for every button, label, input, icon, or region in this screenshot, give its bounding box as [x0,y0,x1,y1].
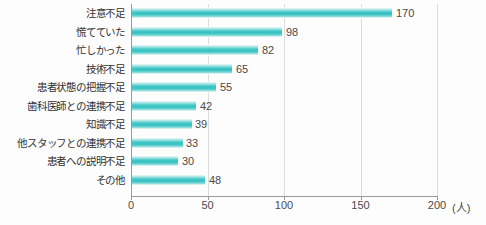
value-label: 170 [392,7,414,19]
bar-row: 他スタッフとの連携不足 33 [0,134,486,153]
bar-row: 患者状態の把握不足 55 [0,78,486,97]
value-label: 98 [282,26,298,38]
bar-row: 忙しかった 82 [0,41,486,60]
value-label: 48 [205,174,221,186]
bar-wrap [132,45,258,56]
bar-row: 患者への説明不足 30 [0,152,486,171]
category-label: 技術不足 [0,63,125,75]
xtick-label: 150 [351,199,369,211]
bar[interactable] [132,82,216,93]
value-label: 42 [196,100,212,112]
bar-row: 知識不足 39 [0,115,486,134]
category-label: 他スタッフとの連携不足 [0,137,125,149]
value-label: 39 [191,118,207,130]
bar[interactable] [132,8,392,19]
bar-wrap [132,137,183,148]
bar-wrap [132,63,232,74]
category-label: その他 [0,174,125,186]
bar-row: その他 48 [0,171,486,190]
bar[interactable] [132,26,282,37]
category-label: 歯科医師との連携不足 [0,100,125,112]
value-label: 82 [258,44,274,56]
xtick-label: 0 [128,199,134,211]
bar-wrap [132,174,205,185]
bar-wrap [132,8,392,19]
bar[interactable] [132,156,178,167]
bar-wrap [132,82,216,93]
bar[interactable] [132,137,183,148]
xtick-label: 100 [275,199,293,211]
x-axis-unit-label: (人) [452,199,470,215]
bar[interactable] [132,45,258,56]
bar[interactable] [132,63,232,74]
value-label: 33 [182,137,198,149]
category-label: 知識不足 [0,118,125,130]
bar[interactable] [132,100,196,111]
bar-row: 慌てていた 98 [0,23,486,42]
xtick-label: 50 [201,199,213,211]
bar-chart: 注意不足 170 慌てていた 98 忙しかった 82 技術不足 65 患者状態の… [0,0,486,225]
category-label: 患者状態の把握不足 [0,81,125,93]
bar-row: 技術不足 65 [0,60,486,79]
bar-wrap [132,156,178,167]
bar-wrap [132,26,282,37]
category-label: 患者への説明不足 [0,155,125,167]
bar-wrap [132,119,192,130]
category-label: 注意不足 [0,7,125,19]
category-label: 慌てていた [0,26,125,38]
value-label: 30 [178,155,194,167]
value-label: 55 [216,81,232,93]
bar-row: 注意不足 170 [0,4,486,23]
caption-clipped [8,220,428,225]
value-label: 65 [232,63,248,75]
bar[interactable] [132,119,192,130]
bar-row: 歯科医師との連携不足 42 [0,97,486,116]
category-label: 忙しかった [0,44,125,56]
xtick-label: 200 [428,199,446,211]
bar-wrap [132,100,196,111]
bar[interactable] [132,174,205,185]
